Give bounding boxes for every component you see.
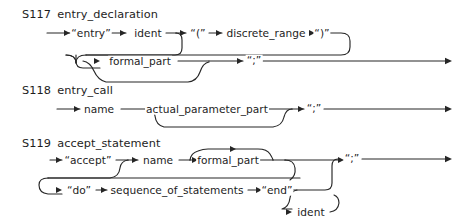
node-semicolon-terminal-s119: “;” <box>344 153 361 164</box>
rule-id-s117: S117 <box>22 8 51 21</box>
node-open-paren-terminal: “(” <box>189 28 206 39</box>
rule-id-s119: S119 <box>22 137 51 150</box>
node-entry-terminal: “entry” <box>70 28 111 39</box>
rule-name-s119: accept_statement <box>57 137 160 150</box>
rule-name-s117: entry_declaration <box>57 8 158 21</box>
rule-label-s118: S118entry_call <box>22 84 113 97</box>
node-name-nonterminal-s119: name <box>142 155 174 166</box>
node-semicolon-terminal-s117: “;” <box>246 55 263 66</box>
node-formal-part-nonterminal-s117: formal_part <box>108 56 172 67</box>
node-name-nonterminal-s118: name <box>83 104 115 115</box>
rule-label-s117: S117entry_declaration <box>22 8 158 21</box>
node-semicolon-terminal-s118: “;” <box>306 103 323 114</box>
node-ident-nonterminal: ident <box>133 28 162 39</box>
node-discrete-range-nonterminal: discrete_range <box>225 28 306 39</box>
rule-id-s118: S118 <box>22 84 51 97</box>
node-formal-part-nonterminal-s119: formal_part <box>196 155 260 166</box>
node-sequence-of-statements-nonterminal: sequence_of_statements <box>109 185 244 196</box>
rule-name-s118: entry_call <box>57 84 113 97</box>
node-actual-parameter-part-nonterminal: actual_parameter_part <box>145 104 269 115</box>
node-end-terminal: “end” <box>260 185 293 196</box>
node-do-terminal: “do” <box>66 185 92 196</box>
node-close-paren-terminal: “)” <box>313 28 330 39</box>
syntax-diagram-page: S117entry_declaration “entry” ident “(” … <box>0 0 462 223</box>
rule-label-s119: S119accept_statement <box>22 137 160 150</box>
node-ident-nonterminal-s119: ident <box>296 207 325 218</box>
node-accept-terminal: “accept” <box>64 155 113 166</box>
